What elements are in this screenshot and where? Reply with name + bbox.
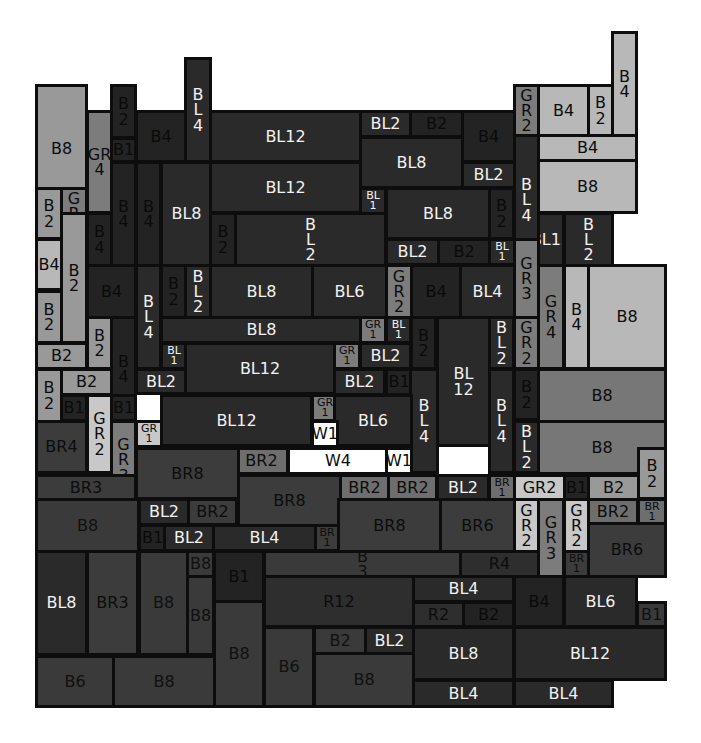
brick-label: B4 [94,224,105,254]
brick-block-br2: BR2 [234,447,289,475]
brick-block-gr1: GR1 [359,316,387,344]
brick-block-bl6: BL6 [563,575,638,628]
brick-label: B4 [425,284,446,300]
brick-block-b8: B8 [213,600,265,708]
brick-block-b2: B2 [409,110,464,138]
brick-label: BR2 [597,504,629,520]
brick-block-gr1: GR1 [135,420,163,448]
brick-label: BL4 [419,398,430,444]
brick-label: BL2 [174,530,204,546]
brick-label: BL4 [143,294,154,340]
brick-label: GR4 [88,147,112,177]
brick-label: BL8 [171,206,201,222]
brick-block-gr2: GR2 [513,474,566,501]
brick-label: BR6 [611,542,643,558]
brick-label: BL8 [448,646,478,662]
brick-block-br1: BR1 [637,498,667,525]
brick-block-bl8: BL8 [160,316,363,344]
brick-block-b4: B4 [135,161,162,267]
brick-block-gr2: GR2 [563,498,590,553]
brick-block-br8: BR8 [135,447,240,500]
brick-block-b2: B2 [513,368,540,421]
brick-block-br6: BR6 [439,498,516,553]
brick-label: GR2 [520,88,532,134]
brick-label: BL2 [521,424,532,470]
brick-label: BL2 [149,504,179,520]
brick-block-b2: B2 [462,601,515,628]
brick-block-bl4: BL4 [184,57,212,163]
brick-label: B6 [278,659,299,675]
brick-label: B4 [478,129,499,145]
brick-label: BL12 [453,366,473,396]
brick-label: GR3 [545,515,557,561]
brick-block-b8: B8 [35,498,140,553]
brick-block-b1: B1 [636,601,667,628]
brick-label: B3 [357,550,368,578]
brick-label: B4 [528,594,549,610]
brick-label: BL12 [265,129,305,145]
brick-label: B4 [577,140,598,156]
brick-label: B2 [44,302,55,332]
brick-label: B8 [153,674,174,690]
brick-label: GR2 [520,320,532,366]
brick-block-w1: W1 [385,447,413,475]
brick-label: GR1 [339,346,355,366]
brick-block-w4: W4 [287,447,389,475]
brick-label: B1 [388,374,409,390]
brick-label: B2 [595,95,606,125]
brick-block-gr2: GR2 [513,316,540,370]
brick-block-b2: B2 [587,84,614,137]
brick-block-b4: B4 [110,161,137,267]
brick-label: BL2 [397,244,427,260]
brick-label: BL4 [496,398,507,444]
brick-label: BR3 [70,480,102,496]
brick-label: B2 [329,633,350,649]
brick-label: BL4 [521,177,532,223]
brick-block-gr1: GR1 [333,342,361,370]
brick-label: B2 [426,116,447,132]
brick-label: BR4 [45,439,77,455]
brick-block-bl2: BL2 [364,626,415,655]
brick-block-b2: B2 [410,316,437,370]
brick-block-b8: B8 [138,550,189,656]
brick-block-br1: BR1 [488,474,516,501]
brick-block-br2: BR2 [587,498,639,525]
brick-block-bl6: BL6 [311,264,388,319]
brick-label: BR3 [96,595,128,611]
brick-label: BL4 [448,581,478,597]
brick-label: BL8 [46,595,76,611]
brick-label: BL1 [366,191,380,211]
brick-label: BL12 [216,413,256,429]
brick-label: BR8 [171,466,203,482]
brick-block-b2: B2 [60,212,88,344]
brick-label: B1 [63,400,84,416]
brick-block-r4: R4 [459,550,540,578]
brick-block-b8: B8 [587,264,667,370]
brick-label: B2 [603,480,624,496]
brick-label: B8 [353,672,374,688]
brick-block-bl2: BL2 [234,212,387,267]
brick-block-bl12: BL12 [209,110,362,163]
brick-label: B8 [51,141,72,157]
brick-label: BR2 [196,504,228,520]
brick-label: B1 [113,400,134,416]
brick-label: B4 [101,284,122,300]
brick-block-b2: B2 [637,447,667,500]
brick-label: B2 [478,607,499,623]
brick-label: BL4 [472,284,502,300]
brick-label: B8 [591,440,612,456]
brick-block-gr4: GR4 [86,110,113,214]
brick-label: BL1 [167,346,181,366]
brick-block-bl2: BL2 [385,238,440,266]
brick-label: BL2 [374,633,404,649]
brick-label: W1 [386,453,412,469]
brick-block-br2: BR2 [387,474,438,501]
brick-label: GR1 [317,398,333,418]
brick-block-bl12: BL12 [160,394,313,447]
brick-label: GR2 [93,411,105,457]
brick-block-br2: BR2 [339,474,390,501]
brick-block-b4: B4 [513,575,565,628]
brick-block-bl1: BL1 [385,316,412,344]
brick-label: GR2 [523,480,557,496]
brick-label: BL2 [370,348,400,364]
